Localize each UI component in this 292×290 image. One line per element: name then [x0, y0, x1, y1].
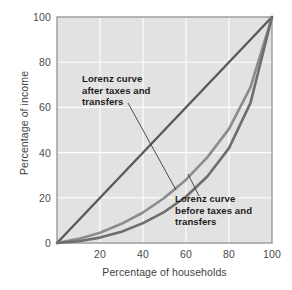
x-axis-title: Percentage of households	[57, 266, 272, 278]
annotation-lorenz-after-taxes: Lorenz curve after taxes and transfers	[82, 73, 150, 108]
annotation-lorenz-before-taxes: Lorenz curve before taxes and transfers	[175, 193, 252, 228]
lorenz-curve-figure: 100 80 60 40 20 0 20 40 60 80 100 Percen…	[0, 0, 292, 290]
y-tick-label-80: 80	[10, 56, 51, 68]
x-tick-label-40: 40	[129, 248, 157, 260]
y-tick-label-0: 0	[10, 237, 51, 249]
x-tick-label-60: 60	[172, 248, 200, 260]
y-tick-label-20: 20	[10, 192, 51, 204]
x-tick-label-80: 80	[215, 248, 243, 260]
y-tick-label-40: 40	[10, 147, 51, 159]
y-tick-label-60: 60	[10, 101, 51, 113]
x-tick-label-20: 20	[86, 248, 114, 260]
y-tick-label-100: 100	[10, 11, 51, 23]
x-tick-label-100: 100	[258, 248, 286, 260]
y-axis-title: Percentage of income	[18, 58, 30, 188]
